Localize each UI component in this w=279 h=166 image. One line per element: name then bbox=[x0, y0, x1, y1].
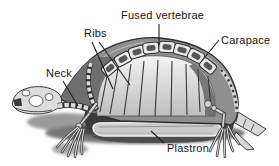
label-fused-vertebrae: Fused vertebrae bbox=[121, 9, 204, 21]
turtle-skeleton-illustration bbox=[0, 0, 279, 166]
skull bbox=[12, 87, 61, 114]
label-plastron: Plastron bbox=[167, 142, 209, 154]
label-carapace: Carapace bbox=[221, 34, 270, 46]
plastron-shape bbox=[93, 122, 221, 136]
label-neck: Neck bbox=[46, 67, 72, 79]
label-ribs: Ribs bbox=[84, 27, 107, 39]
neck-bones bbox=[58, 105, 90, 109]
figure-turtle-skeleton: Fused vertebrae Ribs Carapace Neck Plast… bbox=[0, 0, 279, 166]
